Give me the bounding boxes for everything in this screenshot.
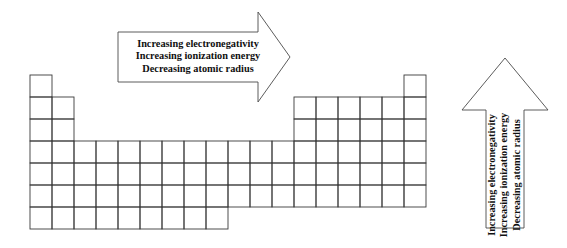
element-cell bbox=[338, 185, 360, 207]
element-cell bbox=[52, 185, 74, 207]
element-cell bbox=[118, 163, 140, 185]
element-cell bbox=[272, 141, 294, 163]
element-cell bbox=[360, 185, 382, 207]
element-cell bbox=[272, 185, 294, 207]
element-cell bbox=[404, 119, 426, 141]
element-cell bbox=[52, 141, 74, 163]
element-cell bbox=[52, 97, 74, 119]
element-cell bbox=[250, 163, 272, 185]
element-cell bbox=[294, 97, 316, 119]
vertical-arrow-line: Increasing ionization energy bbox=[498, 112, 509, 237]
element-cell bbox=[30, 97, 52, 119]
element-cell bbox=[74, 185, 96, 207]
periodic-table-grid bbox=[30, 75, 426, 229]
horizontal-arrow-labels: Increasing electronegativityIncreasing i… bbox=[136, 38, 261, 74]
element-cell bbox=[162, 185, 184, 207]
element-cell bbox=[52, 119, 74, 141]
element-cell bbox=[404, 75, 426, 97]
element-cell bbox=[382, 141, 404, 163]
element-cell bbox=[228, 163, 250, 185]
element-cell bbox=[404, 141, 426, 163]
element-cell bbox=[382, 119, 404, 141]
element-cell bbox=[250, 141, 272, 163]
element-cell bbox=[184, 163, 206, 185]
periodic-trends-figure: Increasing electronegativityIncreasing i… bbox=[0, 0, 567, 248]
element-cell bbox=[74, 207, 96, 229]
horizontal-arrow-line: Increasing ionization energy bbox=[136, 50, 261, 61]
element-cell bbox=[118, 141, 140, 163]
element-cell bbox=[338, 141, 360, 163]
element-cell bbox=[184, 185, 206, 207]
element-cell bbox=[30, 185, 52, 207]
vertical-arrow-labels: Increasing electronegativityIncreasing i… bbox=[486, 112, 522, 237]
element-cell bbox=[360, 119, 382, 141]
element-cell bbox=[382, 97, 404, 119]
element-cell bbox=[272, 163, 294, 185]
element-cell bbox=[206, 163, 228, 185]
horizontal-arrow-line: Increasing electronegativity bbox=[137, 38, 260, 49]
element-cell bbox=[74, 163, 96, 185]
element-cell bbox=[404, 97, 426, 119]
element-cell bbox=[206, 207, 228, 229]
horizontal-arrow-line: Decreasing atomic radius bbox=[142, 63, 253, 74]
element-cell bbox=[316, 119, 338, 141]
element-cell bbox=[140, 207, 162, 229]
element-cell bbox=[184, 207, 206, 229]
element-cell bbox=[206, 185, 228, 207]
element-cell bbox=[96, 207, 118, 229]
element-cell bbox=[118, 185, 140, 207]
element-cell bbox=[96, 185, 118, 207]
element-cell bbox=[360, 141, 382, 163]
element-cell bbox=[250, 185, 272, 207]
element-cell bbox=[52, 207, 74, 229]
element-cell bbox=[162, 163, 184, 185]
element-cell bbox=[382, 163, 404, 185]
element-cell bbox=[228, 185, 250, 207]
element-cell bbox=[338, 163, 360, 185]
element-cell bbox=[162, 141, 184, 163]
element-cell bbox=[140, 141, 162, 163]
element-cell bbox=[360, 97, 382, 119]
element-cell bbox=[316, 97, 338, 119]
element-cell bbox=[316, 185, 338, 207]
element-cell bbox=[140, 185, 162, 207]
element-cell bbox=[360, 163, 382, 185]
element-cell bbox=[96, 141, 118, 163]
figure-canvas: Increasing electronegativityIncreasing i… bbox=[0, 0, 567, 248]
element-cell bbox=[206, 141, 228, 163]
vertical-arrow-line: Increasing electronegativity bbox=[486, 113, 497, 236]
element-cell bbox=[382, 185, 404, 207]
element-cell bbox=[338, 97, 360, 119]
element-cell bbox=[294, 163, 316, 185]
element-cell bbox=[30, 163, 52, 185]
element-cell bbox=[184, 141, 206, 163]
element-cell bbox=[228, 141, 250, 163]
element-cell bbox=[118, 207, 140, 229]
element-cell bbox=[30, 119, 52, 141]
element-cell bbox=[162, 207, 184, 229]
element-cell bbox=[30, 141, 52, 163]
element-cell bbox=[404, 163, 426, 185]
element-cell bbox=[316, 163, 338, 185]
vertical-arrow-line: Decreasing atomic radius bbox=[511, 119, 522, 230]
element-cell bbox=[404, 185, 426, 207]
element-cell bbox=[316, 141, 338, 163]
element-cell bbox=[96, 163, 118, 185]
element-cell bbox=[30, 207, 52, 229]
element-cell bbox=[338, 119, 360, 141]
element-cell bbox=[294, 185, 316, 207]
element-cell bbox=[74, 141, 96, 163]
element-cell bbox=[294, 141, 316, 163]
element-cell bbox=[52, 163, 74, 185]
element-cell bbox=[294, 119, 316, 141]
element-cell bbox=[140, 163, 162, 185]
element-cell bbox=[30, 75, 52, 97]
